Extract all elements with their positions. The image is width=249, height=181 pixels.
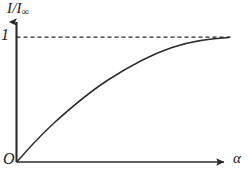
y-axis-label: I/I∞	[7, 1, 29, 17]
plot-canvas	[0, 0, 249, 181]
data-curve	[17, 38, 229, 162]
y-axis-label-subscript: ∞	[22, 6, 29, 17]
y-axis-label-main: I/I	[7, 0, 22, 16]
origin-label: O	[3, 151, 15, 167]
y-tick-label-1: 1	[1, 27, 9, 43]
x-axis-label: α	[233, 151, 241, 166]
chart-figure: I/I∞ 1 O α	[0, 0, 249, 181]
